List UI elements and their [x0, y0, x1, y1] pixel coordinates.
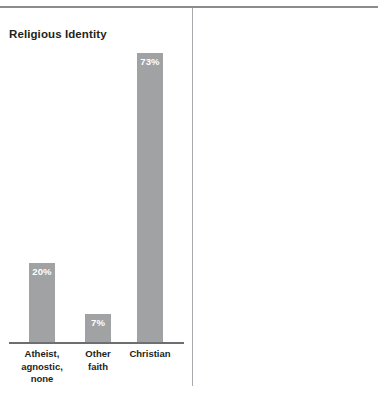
bar-label-other-faith: Other faith	[74, 348, 122, 373]
religious-identity-panel: Religious Identity 20% 7% 73% Atheist, a…	[0, 0, 192, 394]
x-axis-line	[9, 342, 184, 344]
bar-atheist-agnostic-none: 20%	[29, 263, 55, 342]
bar-label-christian: Christian	[124, 348, 176, 361]
bar-label-line: Atheist,	[12, 348, 72, 361]
relationship-status-panel: Relationship Status Married Single, neve…	[193, 0, 378, 394]
bar-value-label: 20%	[29, 266, 55, 277]
bar-label-line: agnostic,	[12, 361, 72, 374]
bar-chart: 20% 7% 73% Atheist, agnostic, none Other…	[0, 0, 192, 394]
bar-label-line: faith	[74, 361, 122, 374]
bar-other-faith: 7%	[85, 314, 111, 342]
bar-label-line: Christian	[124, 348, 176, 361]
bar-value-label: 7%	[85, 317, 111, 328]
infographic-page: Religious Identity 20% 7% 73% Atheist, a…	[0, 0, 378, 394]
bar-label-line: none	[12, 373, 72, 386]
bar-label-atheist-agnostic-none: Atheist, agnostic, none	[12, 348, 72, 386]
bar-value-label: 73%	[137, 56, 163, 67]
bar-label-line: Other	[74, 348, 122, 361]
bar-christian: 73%	[137, 53, 163, 342]
